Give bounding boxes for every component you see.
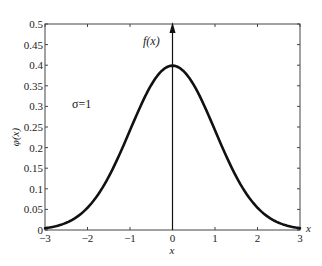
y-tick-label: 0.05 <box>24 203 44 215</box>
normal-distribution-chart: 00.050.10.150.20.250.30.350.40.450.5 −3−… <box>0 0 322 266</box>
y-tick-label: 0.4 <box>29 59 43 71</box>
y-tick-label: 0.25 <box>24 121 44 133</box>
x-tick-label: 1 <box>212 232 218 244</box>
y-tick-label: 0.5 <box>29 18 43 30</box>
x-tick-label: 0 <box>170 232 176 244</box>
x-tick-label: −1 <box>124 232 136 244</box>
x-axis-label-right: x <box>305 222 311 234</box>
y-axis-label: φ(x) <box>9 128 22 147</box>
x-tick-label: −3 <box>39 232 51 244</box>
x-tick-label: −2 <box>82 232 94 244</box>
x-tick-label: 3 <box>297 232 303 244</box>
y-tick-label: 0.3 <box>29 100 43 112</box>
y-tick-label: 0.1 <box>29 183 43 195</box>
y-tick-label: 0.2 <box>29 142 43 154</box>
fx-axis-label: f(x) <box>143 34 160 48</box>
x-axis-label-bottom: x <box>169 244 175 256</box>
y-tick-label: 0.35 <box>24 80 44 92</box>
y-axis-ticks: 00.050.10.150.20.250.30.350.40.450.5 <box>24 18 300 236</box>
x-axis-ticks: −3−2−10123 <box>39 24 303 244</box>
y-tick-label: 0.45 <box>24 39 44 51</box>
y-tick-label: 0.15 <box>24 162 44 174</box>
x-tick-label: 2 <box>255 232 261 244</box>
sigma-annotation: σ=1 <box>72 97 91 111</box>
